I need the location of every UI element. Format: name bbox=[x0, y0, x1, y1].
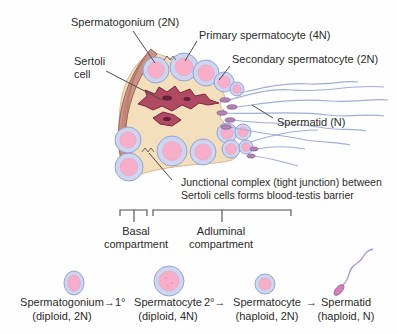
sequence-spermatogonium-cell bbox=[64, 271, 84, 295]
basal-bracket bbox=[120, 210, 147, 222]
leader-spermatid bbox=[252, 105, 273, 118]
germ-cell bbox=[230, 82, 244, 96]
adluminal-line2: compartment bbox=[179, 238, 263, 251]
adluminal-bracket bbox=[153, 210, 291, 222]
label-sertoli-cell: Sertoli cell bbox=[74, 55, 105, 80]
label-primary-spermatocyte: Primary spermatocyte (4N) bbox=[199, 29, 330, 42]
label-spermatogonium: Spermatogonium (2N) bbox=[71, 16, 179, 29]
label-junction-line1: Junctional complex (tight junction) betw… bbox=[181, 176, 382, 189]
sequence-secondary-spermatocyte-cell bbox=[255, 274, 275, 294]
label-secondary-spermatocyte: Secondary spermatocyte (2N) bbox=[232, 53, 378, 66]
sperm-tails bbox=[250, 130, 318, 166]
diagram-canvas bbox=[0, 0, 397, 334]
compartment-brackets bbox=[120, 210, 291, 222]
stage-primary-spermatocyte: Spermatocyte (diploid, 4N) bbox=[120, 296, 216, 323]
sequence-cells bbox=[64, 249, 373, 297]
sertoli-nucleus bbox=[184, 97, 191, 101]
label-spermatid: Spermatid (N) bbox=[277, 116, 345, 129]
label-junctional-complex: Junctional complex (tight junction) betw… bbox=[181, 176, 382, 201]
germ-cell bbox=[190, 139, 216, 165]
germ-cell bbox=[222, 140, 240, 158]
stage-ploidy: (diploid, 2N) bbox=[14, 310, 110, 324]
sertoli-nucleus bbox=[162, 96, 172, 101]
sperm-tail bbox=[342, 249, 373, 286]
label-basal-compartment: Basal compartment bbox=[94, 225, 178, 250]
sequence-primary-spermatocyte-cell bbox=[154, 266, 184, 296]
spermatogonium-cell bbox=[143, 57, 169, 83]
basal-line2: compartment bbox=[94, 238, 178, 251]
label-sertoli-line2: cell bbox=[74, 68, 105, 81]
sequence-spermatid-sperm bbox=[332, 249, 373, 297]
stage-name: Spermatocyte bbox=[120, 296, 216, 310]
stage-spermatogonium: Spermatogonium (diploid, 2N) bbox=[14, 296, 110, 323]
sperm-head bbox=[332, 283, 345, 297]
label-sertoli-line1: Sertoli bbox=[74, 55, 105, 68]
stage-ploidy: (diploid, 4N) bbox=[120, 310, 216, 324]
label-adluminal-compartment: Adluminal compartment bbox=[179, 225, 263, 250]
sertoli-nucleus bbox=[163, 117, 171, 121]
adluminal-line1: Adluminal bbox=[179, 225, 263, 238]
germ-cell bbox=[235, 124, 251, 140]
stage-name: Spermatogonium bbox=[14, 296, 110, 310]
stage-name: Spermatid bbox=[298, 296, 394, 310]
germ-cell bbox=[115, 153, 143, 181]
stage-ploidy: (haploid, N) bbox=[298, 310, 394, 324]
germ-cell bbox=[115, 127, 141, 153]
label-junction-line2: Sertoli cells forms blood-testis barrier bbox=[181, 189, 382, 202]
germ-cell bbox=[157, 136, 187, 166]
stage-spermatid: Spermatid (haploid, N) bbox=[298, 296, 394, 323]
basal-line1: Basal bbox=[94, 225, 178, 238]
spermatogenesis-figure: Spermatogonium (2N) Primary spermatocyte… bbox=[0, 0, 397, 334]
